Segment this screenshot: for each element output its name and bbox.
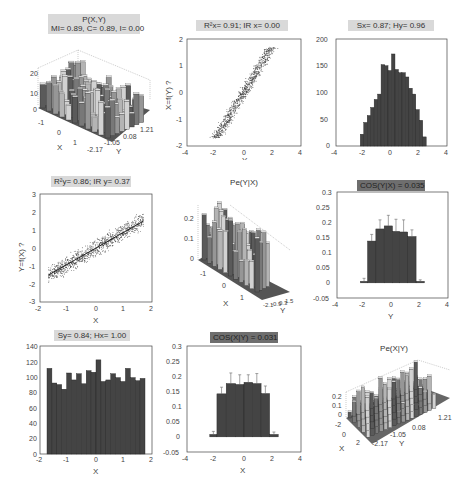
svg-text:-0.05: -0.05: [313, 295, 329, 302]
error-bar-chart: 0.30.25 0.20.15 0.10.05 0-0.05 -4-2 02 4…: [160, 320, 320, 489]
x-axis-label: X: [339, 444, 345, 453]
svg-text:100: 100: [316, 89, 328, 96]
hist-bar: [111, 374, 116, 454]
histogram: 140120 10080 6040 200 -2-1 01 2 X: [0, 320, 160, 489]
bar: [384, 226, 392, 283]
scatter-plot: 21 0-1 -2 -4-2 02 4 Y X=f(Y) ?: [160, 0, 320, 160]
svg-text:0: 0: [342, 431, 346, 438]
svg-text:-4: -4: [331, 149, 337, 156]
y-axis-label: Y: [280, 306, 286, 315]
hist-bar: [135, 381, 140, 454]
hist-bar: [140, 378, 145, 454]
svg-text:10: 10: [30, 90, 38, 97]
svg-text:1: 1: [73, 139, 77, 146]
hist-bar: [409, 88, 412, 146]
svg-text:2: 2: [149, 305, 153, 312]
svg-text:4: 4: [444, 149, 448, 156]
x-axis-label: X: [223, 299, 229, 308]
panel-cos-xy: COS(X|Y) = 0.031 0.30.25 0.20.15 0.10.05…: [160, 320, 320, 489]
svg-text:50: 50: [320, 116, 328, 123]
svg-text:0.1: 0.1: [332, 402, 342, 409]
svg-text:-2: -2: [359, 149, 365, 156]
svg-text:-1: -1: [176, 116, 182, 123]
svg-text:0.1: 0.1: [322, 249, 332, 256]
panel-joint-3d: P(X,Y) MI= 0.89, C= 0.89, I= 0.00 20 10 …: [0, 0, 160, 160]
svg-text:0: 0: [32, 245, 36, 252]
svg-text:200: 200: [316, 36, 328, 43]
svg-text:0: 0: [33, 106, 37, 113]
scatter-plot: 32 10 -1-2 -3 -2-1 01 2 X Y=f(X) ?: [0, 160, 160, 330]
hist-bar: [76, 374, 81, 454]
z-tick: 20: [30, 70, 38, 77]
bar: [261, 394, 270, 437]
svg-text:-4: -4: [332, 301, 338, 308]
svg-text:140: 140: [26, 343, 38, 350]
svg-text:0.1: 0.1: [184, 235, 194, 242]
svg-text:-2: -2: [210, 455, 216, 462]
y-axis-label: X=f(Y) ?: [164, 80, 173, 110]
svg-text:4: 4: [298, 149, 302, 156]
svg-text:-4: -4: [182, 149, 188, 156]
x-axis-label: X: [57, 143, 63, 152]
svg-text:0.2: 0.2: [184, 215, 194, 222]
svg-text:0.05: 0.05: [316, 264, 330, 271]
panel-hist-x: Sy= 0.84; Hx= 1.00 140120 10080 6040 200…: [0, 320, 160, 489]
svg-text:80: 80: [29, 389, 37, 396]
svg-text:0.08: 0.08: [412, 424, 426, 431]
svg-text:-1: -1: [38, 119, 44, 126]
svg-text:-4: -4: [182, 455, 188, 462]
svg-text:-1.05: -1.05: [390, 431, 406, 438]
hist-bar: [116, 378, 121, 454]
svg-text:0.05: 0.05: [166, 418, 180, 425]
svg-text:-1: -1: [200, 270, 206, 277]
svg-text:0.3: 0.3: [172, 343, 182, 350]
hist-bar: [81, 384, 86, 454]
hist-bar: [416, 110, 419, 146]
svg-text:0.2: 0.2: [322, 219, 332, 226]
svg-text:2: 2: [270, 455, 274, 462]
panel-hist-y: Sx= 0.87; Hy= 0.96 200150 10050 0 -4-2 0…: [310, 0, 468, 160]
svg-text:0: 0: [388, 149, 392, 156]
panel-scatter-xy: R²x= 0.91; IR x= 0.00 21 0-1 -2 -4-2 02 …: [160, 0, 320, 160]
y-axis-label: Y=f(X) ?: [17, 242, 26, 272]
hist-bar: [423, 137, 426, 146]
svg-text:0.08: 0.08: [123, 133, 137, 140]
bar3d-plot: 0.2 0.1 0 -1 0 1 X -2.1-0.9 0.31.5 Y: [160, 160, 320, 330]
svg-text:0: 0: [57, 129, 61, 136]
bar: [253, 384, 262, 437]
svg-text:120: 120: [26, 359, 38, 366]
bar: [393, 231, 400, 282]
hist-bar: [419, 120, 422, 146]
svg-text:-1.05: -1.05: [104, 139, 120, 146]
svg-text:-3: -3: [29, 298, 35, 305]
svg-text:-2: -2: [335, 421, 341, 428]
hist-bar: [402, 73, 405, 146]
svg-text:1: 1: [121, 305, 125, 312]
svg-text:2: 2: [356, 439, 360, 446]
x-axis-label: X: [240, 466, 246, 475]
svg-text:-2.17: -2.17: [87, 146, 103, 153]
svg-text:0: 0: [222, 282, 226, 289]
svg-text:-1: -1: [29, 263, 35, 270]
svg-text:-2: -2: [35, 305, 41, 312]
y-axis-label: Y: [116, 147, 122, 156]
svg-text:-1: -1: [63, 456, 69, 463]
svg-text:4: 4: [298, 455, 302, 462]
hist-bar: [395, 69, 398, 146]
svg-text:40: 40: [29, 420, 37, 427]
panel-cos-yx: COS(Y|X) = 0.035 0.30.25 0.20.15 0.10.05…: [310, 160, 468, 330]
bar: [416, 281, 424, 283]
hist-bar: [364, 122, 367, 146]
svg-text:-2: -2: [36, 456, 42, 463]
bar: [376, 229, 384, 283]
svg-text:2: 2: [149, 456, 153, 463]
bar: [244, 382, 253, 437]
bar: [408, 237, 416, 283]
hist-bar: [67, 373, 72, 454]
svg-text:-0.05: -0.05: [163, 449, 179, 456]
svg-text:1: 1: [179, 62, 183, 69]
svg-text:-2.17: -2.17: [372, 440, 388, 447]
hist-bar: [72, 380, 77, 454]
hist-bar: [385, 66, 388, 146]
svg-text:0.15: 0.15: [166, 388, 180, 395]
